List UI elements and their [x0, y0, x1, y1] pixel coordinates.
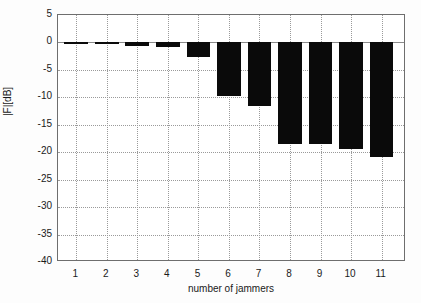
bar	[339, 42, 363, 148]
y-tick-mark	[57, 42, 58, 43]
bar	[278, 42, 302, 144]
x-tick-mark	[76, 260, 77, 261]
x-tick-mark-top	[198, 14, 199, 15]
x-tick-mark	[290, 260, 291, 261]
x-tick-mark	[382, 260, 383, 261]
x-tick-mark	[107, 260, 108, 261]
x-tick-mark	[229, 260, 230, 261]
gridline-vertical	[137, 15, 138, 260]
x-tick-mark	[259, 260, 260, 261]
bar	[125, 42, 149, 46]
plot-area	[57, 14, 405, 261]
y-tick-mark-right	[404, 70, 405, 71]
y-tick-mark	[57, 180, 58, 181]
bar	[248, 42, 272, 105]
x-tick-mark	[198, 260, 199, 261]
gridline-vertical	[107, 15, 108, 260]
gridline-horizontal	[58, 207, 404, 208]
x-tick-mark-top	[107, 14, 108, 15]
bar	[187, 42, 211, 56]
x-tick-mark-top	[351, 14, 352, 15]
x-tick-mark	[351, 260, 352, 261]
x-tick-mark-top	[290, 14, 291, 15]
chart-figure: |F|[dB] number of jammers 50-5-10-15-20-…	[0, 0, 421, 303]
x-tick-mark-top	[321, 14, 322, 15]
y-tick-mark-right	[404, 97, 405, 98]
x-tick-mark-top	[76, 14, 77, 15]
y-tick-mark-right	[404, 42, 405, 43]
bar	[156, 42, 180, 46]
x-tick-mark-top	[168, 14, 169, 15]
gridline-vertical	[76, 15, 77, 260]
bar	[309, 42, 333, 144]
bar	[217, 42, 241, 96]
gridline-horizontal	[58, 152, 404, 153]
gridline-vertical	[168, 15, 169, 260]
y-tick-mark-right	[404, 15, 405, 16]
x-tick-mark	[137, 260, 138, 261]
x-tick-mark	[321, 260, 322, 261]
y-tick-mark-right	[404, 207, 405, 208]
x-tick-mark-top	[137, 14, 138, 15]
bar	[370, 42, 394, 157]
y-tick-mark	[57, 235, 58, 236]
x-tick-mark	[168, 260, 169, 261]
y-tick-mark-right	[404, 152, 405, 153]
gridline-horizontal	[58, 235, 404, 236]
y-tick-mark	[57, 152, 58, 153]
y-tick-mark	[57, 125, 58, 126]
y-tick-mark	[57, 207, 58, 208]
gridline-horizontal	[58, 180, 404, 181]
bar	[95, 42, 119, 44]
x-tick-label: 11	[361, 269, 401, 279]
x-tick-mark-top	[382, 14, 383, 15]
y-tick-mark	[57, 97, 58, 98]
y-tick-mark	[57, 70, 58, 71]
y-tick-mark-right	[404, 235, 405, 236]
y-tick-mark	[57, 15, 58, 16]
x-tick-mark-top	[229, 14, 230, 15]
x-tick-mark-top	[259, 14, 260, 15]
bar	[64, 42, 88, 44]
y-tick-mark-right	[404, 180, 405, 181]
y-tick-mark-right	[404, 125, 405, 126]
